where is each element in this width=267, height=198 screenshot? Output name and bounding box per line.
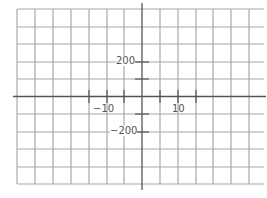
y-tick-label-200: 200 [116, 56, 135, 66]
x-tick-label-neg10: −10 [93, 104, 114, 114]
x-tick-label-10: 10 [172, 104, 185, 114]
coordinate-grid [0, 0, 267, 198]
axes [13, 3, 266, 190]
y-tick-label-neg200: −200 [110, 126, 137, 136]
